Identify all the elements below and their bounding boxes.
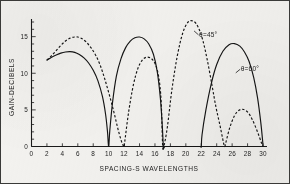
annotation-theta-45: θ=45° [199, 31, 217, 38]
annotations-group: θ=45° θ=60° [194, 31, 259, 73]
y-tick-label: 15 [20, 33, 28, 40]
y-axis-title: GAIN-DECIBELS [8, 58, 15, 116]
x-axis-tick-labels: 024681012141618202224262830 [30, 150, 267, 157]
x-tick-label: 24 [213, 150, 221, 157]
x-axis: 024681012141618202224262830 [30, 143, 267, 157]
y-axis-tick-labels: 051015 [20, 33, 28, 150]
x-tick-label: 30 [259, 150, 267, 157]
x-tick-label: 6 [76, 150, 80, 157]
annotation-leader-theta-60 [236, 69, 240, 73]
annotation-theta-60: θ=60° [241, 65, 259, 72]
x-tick-label: 28 [244, 150, 252, 157]
x-tick-label: 8 [91, 150, 95, 157]
y-tick-label: 0 [24, 143, 28, 150]
series-line-theta-45 [47, 21, 263, 151]
x-tick-label: 14 [136, 150, 144, 157]
x-axis-title: SPACING-S WAVELENGTHS [100, 165, 199, 172]
x-tick-label: 18 [167, 150, 175, 157]
x-tick-label: 12 [120, 150, 128, 157]
y-axis-ticks [32, 22, 36, 147]
figure-frame: 051015 024681012141618202224262830 θ=45°… [0, 0, 290, 184]
annotation-leader-theta-45 [194, 31, 198, 35]
chart-surface: 051015 024681012141618202224262830 θ=45°… [1, 1, 290, 184]
data-series-group [47, 21, 263, 151]
x-tick-label: 26 [228, 150, 236, 157]
x-tick-label: 16 [151, 150, 159, 157]
y-tick-label: 5 [24, 106, 28, 113]
y-axis: 051015 [20, 19, 35, 150]
gain-vs-spacing-chart: 051015 024681012141618202224262830 θ=45°… [1, 1, 290, 184]
x-tick-label: 2 [45, 150, 49, 157]
x-tick-label: 22 [198, 150, 206, 157]
x-tick-label: 20 [182, 150, 190, 157]
x-tick-label: 4 [60, 150, 64, 157]
y-tick-label: 10 [20, 70, 28, 77]
series-line-theta-60 [47, 37, 263, 148]
x-tick-label: 0 [30, 150, 34, 157]
x-tick-label: 10 [105, 150, 113, 157]
